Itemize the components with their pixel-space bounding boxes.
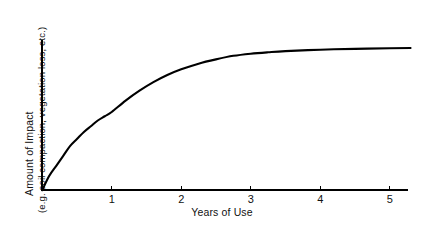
x-tick-mark [111, 186, 112, 191]
x-axis-line [41, 189, 408, 191]
x-tick-mark [389, 186, 390, 191]
x-tick-label: 5 [380, 193, 400, 205]
x-tick-mark [250, 186, 251, 191]
impact-curve [42, 48, 410, 190]
y-axis-label-primary: Amount of Impact [23, 111, 35, 196]
y-axis-line [41, 40, 43, 191]
x-tick-label: 3 [241, 193, 261, 205]
x-tick-mark [181, 186, 182, 191]
x-tick-mark [320, 186, 321, 191]
chart-figure: Amount of Impact (e.g. soil compaction, … [0, 0, 422, 229]
x-tick-label: 4 [310, 193, 330, 205]
x-tick-label: 1 [102, 193, 122, 205]
x-tick-label: 2 [171, 193, 191, 205]
plot-area [0, 0, 422, 229]
x-axis-label: Years of Use [0, 206, 422, 218]
